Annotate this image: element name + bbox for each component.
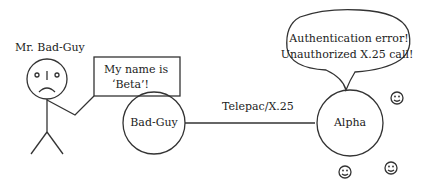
link-label: Telepac/X.25 bbox=[222, 100, 294, 113]
node-bad-guy-label: Bad-Guy bbox=[130, 116, 178, 129]
attacker-speech-line2: ‘Beta’! bbox=[112, 78, 149, 91]
stick-figure-icon bbox=[27, 59, 94, 154]
alpha-speech-line1: Authentication error! bbox=[288, 32, 408, 45]
network-diagram: Mr. Bad-Guy My name is ‘Beta’! Bad-Guy T… bbox=[0, 0, 428, 193]
smiley-face-icon bbox=[339, 166, 351, 178]
attacker-speech-box: My name is ‘Beta’! bbox=[94, 57, 180, 96]
smiley-face-icon bbox=[391, 92, 403, 104]
node-alpha: Alpha bbox=[317, 90, 383, 156]
attacker-speech-line1: My name is bbox=[104, 63, 169, 76]
attacker-label: Mr. Bad-Guy bbox=[15, 41, 86, 54]
alpha-speech-bubble: Authentication error! Unauthorized X.25 … bbox=[281, 10, 414, 90]
alpha-speech-line2: Unauthorized X.25 call! bbox=[281, 48, 414, 61]
node-alpha-label: Alpha bbox=[333, 116, 367, 129]
node-bad-guy: Bad-Guy bbox=[123, 92, 185, 154]
smiley-face-icon bbox=[385, 162, 397, 174]
